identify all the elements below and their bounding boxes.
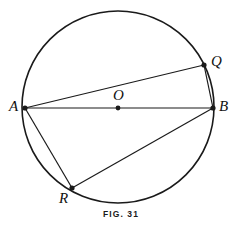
figure-caption: FIG. 31 [0, 209, 242, 219]
vertex-dot-a [22, 105, 27, 110]
chord-rb [72, 108, 213, 188]
center-dot-o [116, 106, 121, 111]
figure-31-container: A B Q R O FIG. 31 [0, 0, 242, 230]
vertex-dot-b [210, 105, 215, 110]
vertex-dot-r [69, 185, 74, 190]
vertex-label-q: Q [211, 54, 222, 69]
vertex-label-a: A [9, 99, 18, 114]
geometry-diagram [0, 0, 242, 230]
vertex-dot-q [201, 62, 206, 67]
center-label-o: O [113, 88, 124, 103]
vertex-label-r: R [59, 191, 68, 206]
vertex-label-b: B [219, 99, 228, 114]
